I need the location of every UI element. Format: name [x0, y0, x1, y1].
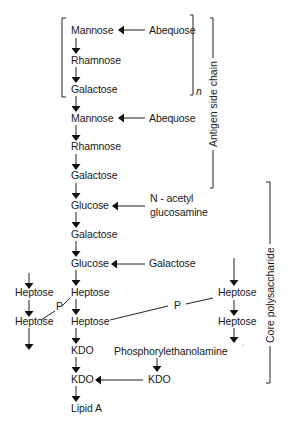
antigen-side-chain-label: Antigen side chain	[207, 58, 219, 150]
main-chain-label: Glucose	[71, 199, 109, 211]
abequose-label: Abequose	[149, 112, 196, 124]
main-chain-label: Galactose	[71, 228, 117, 240]
main-chain-label: Heptose	[71, 315, 109, 327]
main-chain-label: Heptose	[71, 286, 109, 298]
phosphate-label: P	[56, 300, 63, 312]
kdo-branch-label: KDO	[148, 373, 170, 385]
repeat-subscript: n	[196, 85, 202, 97]
phosphate-label: P	[174, 299, 181, 311]
abequose-label: Abequose	[149, 24, 196, 36]
main-chain-label: KDO	[71, 373, 93, 385]
main-chain-label: Mannose	[71, 24, 114, 36]
left-heptose-label: Heptose	[15, 286, 53, 298]
nacetyl-label: N - acetyl	[150, 192, 193, 204]
phosphorylethanolamine-label: Phosphorylethanolamine	[114, 345, 227, 357]
glucosamine-label: glucosamine	[150, 206, 208, 218]
main-chain-label: Rhamnose	[71, 54, 121, 66]
main-chain-label: Glucose	[71, 257, 109, 269]
main-chain-label: Rhamnose	[71, 140, 121, 152]
main-chain-label: Galactose	[71, 83, 117, 95]
left-heptose-label: Heptose	[15, 315, 53, 327]
main-chain-label: Mannose	[71, 112, 114, 124]
core-polysaccharide-label: Core polysaccharide	[264, 244, 276, 346]
connector-lines	[0, 0, 290, 426]
repeat-bracket-left	[62, 18, 66, 97]
main-chain-label: Lipid A	[71, 402, 102, 414]
main-chain-label: KDO	[71, 344, 93, 356]
main-chain-label: Galactose	[71, 169, 117, 181]
right-heptose-label: Heptose	[218, 286, 256, 298]
dot-mark: .	[242, 338, 244, 350]
right-heptose-label: Heptose	[218, 315, 256, 327]
galactose-branch-label: Galactose	[149, 257, 195, 269]
